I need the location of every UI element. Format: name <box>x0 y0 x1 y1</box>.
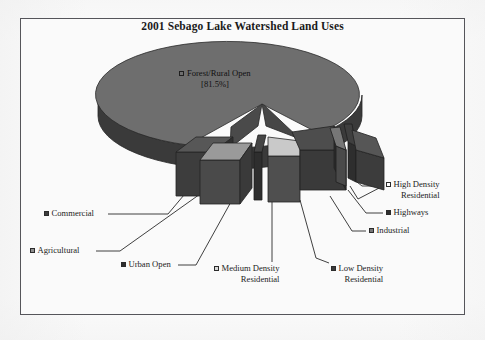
legend-swatch-industrial-icon <box>369 228 374 233</box>
label-medium-density-text: Medium Density <box>222 263 280 274</box>
legend-swatch-forest-icon <box>179 71 184 76</box>
legend-swatch-urban-open-icon <box>121 262 126 267</box>
slice-urban-open-side <box>254 152 262 200</box>
legend-swatch-low-density-icon <box>331 266 336 271</box>
label-highways: Highways <box>386 207 428 218</box>
label-commercial-text: Commercial <box>52 208 94 219</box>
label-low-density-residential: Low Density Residential <box>331 263 383 284</box>
label-medium-density-residential: Medium Density Residential <box>214 263 280 284</box>
label-commercial: Commercial <box>44 208 94 219</box>
legend-swatch-agricultural-icon <box>30 248 35 253</box>
label-low-density-text2: Residential <box>331 274 383 285</box>
label-highways-text: Highways <box>394 207 429 218</box>
legend-swatch-high-density-icon <box>386 182 391 187</box>
slice-industrial-side <box>336 146 346 186</box>
label-urban-open-text: Urban Open <box>129 259 171 270</box>
leader-low-density <box>300 200 329 263</box>
leader-highways <box>348 190 383 213</box>
center-slice-callout: Forest/Rural Open [81.5%] <box>150 68 280 90</box>
label-industrial: Industrial <box>369 225 409 236</box>
slice-high-density-residential <box>352 130 384 190</box>
label-agricultural: Agricultural <box>30 245 80 256</box>
slice-medium-density-residential <box>268 137 300 202</box>
label-high-density-residential: High Density Residential <box>386 179 440 200</box>
center-slice-percent: [81.5%] <box>150 79 280 90</box>
label-urban-open: Urban Open <box>121 259 171 270</box>
label-medium-density-text2: Residential <box>214 274 280 285</box>
label-low-density-text: Low Density <box>339 263 384 274</box>
screenshot-page: 2001 Sebago Lake Watershed Land Uses <box>0 0 485 340</box>
label-high-density-text2: Residential <box>386 190 440 201</box>
slice-agricultural-side <box>200 160 240 204</box>
label-agricultural-text: Agricultural <box>38 245 80 256</box>
label-high-density-text: High Density <box>394 179 440 190</box>
legend-swatch-highways-icon <box>386 210 391 215</box>
label-industrial-text: Industrial <box>377 225 410 236</box>
legend-swatch-commercial-icon <box>44 211 49 216</box>
slice-medium-density-side <box>268 156 300 202</box>
leader-urban-open <box>178 200 232 265</box>
center-slice-name: Forest/Rural Open <box>187 68 251 78</box>
legend-swatch-medium-density-icon <box>214 266 219 271</box>
leader-industrial <box>330 196 366 231</box>
pie-chart-graphic <box>0 0 485 340</box>
slice-agricultural <box>200 143 252 204</box>
slice-highways-side <box>348 142 356 182</box>
